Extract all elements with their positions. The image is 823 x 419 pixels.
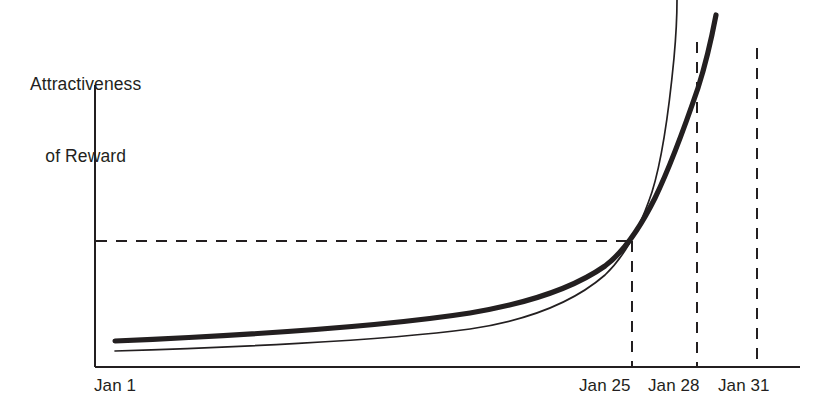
x-tick-label-jan-25: Jan 25 (579, 376, 631, 396)
x-tick-label-jan-31: Jan 31 (718, 376, 770, 396)
x-tick-label-jan-1: Jan 1 (94, 376, 136, 396)
chart-figure: Attractiveness of Reward Jan 1 Jan 25 Ja… (0, 0, 823, 419)
y-axis-label-line-1: Attractiveness (30, 72, 141, 96)
curve-thin-smaller-sooner (115, 0, 677, 351)
y-axis-label: Attractiveness of Reward (30, 24, 141, 216)
curve-thick-larger-later (115, 15, 716, 341)
y-axis-label-line-2: of Reward (30, 144, 141, 168)
x-tick-label-jan-28: Jan 28 (648, 376, 700, 396)
